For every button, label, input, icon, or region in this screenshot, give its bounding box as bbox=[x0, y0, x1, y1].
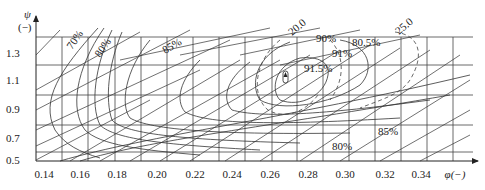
label-25: 25.0 bbox=[393, 15, 416, 37]
efficiency-contour-chart: 70% 80% 85% 20.0 90% 80.5% 91% 91.5% 25.… bbox=[0, 0, 485, 190]
y-tick: 1.3 bbox=[6, 47, 20, 59]
x-tick: 0.18 bbox=[107, 168, 127, 180]
x-tick: 0.34 bbox=[411, 168, 431, 180]
x-axis-title: φ(−) bbox=[445, 168, 466, 181]
best-efficiency-point bbox=[283, 71, 288, 83]
label-90: 90% bbox=[316, 32, 336, 44]
y-axis: ψ (−) 1.3 1.1 0.9 0.7 0.5 bbox=[6, 8, 32, 166]
label-80-bottom: 80% bbox=[332, 140, 352, 152]
x-tick: 0.32 bbox=[375, 168, 394, 180]
label-91: 91% bbox=[332, 47, 352, 59]
label-70: 70% bbox=[64, 28, 85, 51]
label-80-5: 80.5% bbox=[352, 36, 380, 48]
x-tick: 0.14 bbox=[34, 168, 54, 180]
x-tick: 0.20 bbox=[147, 168, 167, 180]
x-axis: 0.14 0.16 0.18 0.20 0.22 0.24 0.26 0.28 … bbox=[34, 168, 465, 181]
label-85-top: 85% bbox=[160, 35, 183, 55]
label-80-top: 80% bbox=[92, 36, 113, 59]
x-tick: 0.16 bbox=[70, 168, 90, 180]
y-tick: 0.7 bbox=[6, 132, 20, 144]
x-tick: 0.26 bbox=[260, 168, 280, 180]
x-tick: 0.24 bbox=[222, 168, 242, 180]
y-axis-title: ψ bbox=[24, 8, 31, 20]
contour-labels: 70% 80% 85% 20.0 90% 80.5% 91% 91.5% 25.… bbox=[64, 15, 416, 152]
x-tick: 0.30 bbox=[335, 168, 355, 180]
x-tick: 0.22 bbox=[185, 168, 204, 180]
y-tick: 0.5 bbox=[6, 154, 20, 166]
label-85-bottom: 85% bbox=[378, 125, 398, 137]
x-tick: 0.28 bbox=[298, 168, 318, 180]
y-tick: 0.9 bbox=[6, 103, 20, 115]
y-tick: 1.1 bbox=[6, 74, 20, 86]
y-axis-unit: (−) bbox=[18, 21, 32, 34]
label-91-5: 91.5% bbox=[304, 62, 332, 74]
